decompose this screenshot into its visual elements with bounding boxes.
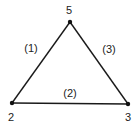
node-label-right: 3: [125, 112, 131, 123]
edge-3: [70, 22, 128, 104]
edge-1: [12, 22, 70, 103]
edge-label-2: (2): [63, 88, 76, 99]
node-left: [10, 101, 14, 105]
edge-label-1: (1): [24, 43, 37, 54]
edge-label-3: (3): [102, 44, 115, 55]
triangle-diagram: [0, 0, 134, 124]
node-label-left: 2: [8, 112, 14, 123]
node-right: [126, 102, 130, 106]
edge-2: [12, 103, 128, 104]
node-label-top: 5: [66, 5, 72, 16]
node-top: [68, 20, 72, 24]
